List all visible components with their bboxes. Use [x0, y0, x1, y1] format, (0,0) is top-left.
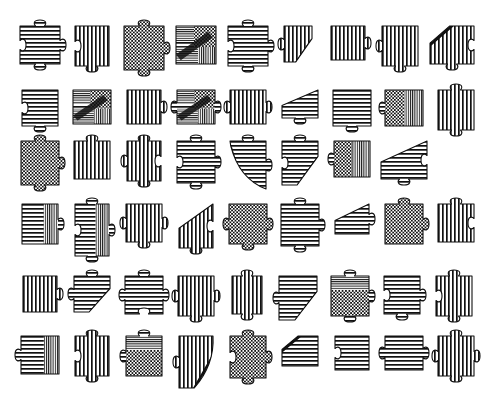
puzzle-piece-r5c3[interactable]	[117, 268, 171, 322]
puzzle-piece-r4c5[interactable]	[221, 196, 275, 252]
puzzle-piece-r3c4[interactable]	[169, 133, 223, 191]
puzzle-piece-r1c8[interactable]	[374, 18, 426, 74]
puzzle-piece-r3c8[interactable]	[373, 133, 435, 187]
piece-cell	[172, 268, 220, 330]
piece-cell	[68, 196, 116, 258]
piece-row-4	[16, 196, 435, 258]
puzzle-piece-r6c5[interactable]	[222, 328, 274, 386]
piece-cell	[16, 328, 64, 390]
puzzle-piece-r6c3[interactable]	[118, 328, 170, 384]
puzzle-piece-r1c3[interactable]	[116, 18, 172, 78]
piece-row-1	[16, 18, 435, 80]
piece-cell	[172, 18, 220, 80]
puzzle-piece-r2c5[interactable]	[222, 82, 274, 132]
puzzle-piece-r4c8[interactable]	[377, 196, 431, 252]
puzzle-piece-r5c5[interactable]	[224, 268, 270, 322]
piece-cell	[16, 133, 64, 195]
puzzle-piece-r4c7[interactable]	[327, 196, 377, 242]
puzzle-piece-r6c2[interactable]	[67, 328, 117, 384]
piece-cell	[172, 196, 220, 258]
puzzle-piece-r2c3[interactable]	[119, 82, 169, 132]
piece-cell	[324, 18, 372, 80]
piece-cell	[378, 268, 426, 330]
piece-cell	[68, 328, 116, 390]
puzzle-piece-r1c2[interactable]	[67, 18, 117, 74]
puzzle-piece-r5c2[interactable]	[66, 268, 118, 320]
puzzle-piece-r2c1[interactable]	[14, 82, 66, 134]
piece-cell	[276, 18, 320, 80]
puzzle-piece-r2c8[interactable]	[377, 82, 431, 134]
puzzle-piece-r1c6[interactable]	[276, 18, 320, 70]
puzzle-piece-r2c4[interactable]	[169, 82, 223, 132]
puzzle-piece-r5c7[interactable]	[323, 268, 377, 324]
puzzle-piece-r6c8[interactable]	[377, 328, 431, 378]
piece-cell	[68, 18, 116, 80]
puzzle-piece-r5c1[interactable]	[15, 268, 65, 320]
puzzle-piece-r1c9[interactable]	[422, 18, 482, 72]
piece-cell	[16, 196, 64, 258]
puzzle-piece-r3c7[interactable]	[326, 133, 378, 185]
puzzle-piece-r3c6[interactable]	[274, 133, 326, 193]
piece-cell	[68, 268, 116, 330]
puzzle-piece-r3c2[interactable]	[66, 133, 118, 187]
piece-row-3	[16, 133, 435, 195]
piece-cell	[224, 133, 272, 195]
piece-cell	[276, 328, 324, 390]
puzzle-piece-r4c1[interactable]	[14, 196, 66, 252]
piece-cell	[432, 196, 480, 258]
puzzle-piece-r3c1[interactable]	[13, 133, 67, 193]
piece-cell	[120, 133, 168, 195]
piece-row-6	[16, 328, 435, 390]
puzzle-piece-r6c1[interactable]	[13, 328, 67, 382]
puzzle-piece-r4c9[interactable]	[430, 196, 482, 250]
piece-cell	[172, 133, 220, 195]
puzzle-piece-r5c4[interactable]	[170, 268, 222, 324]
piece-cell	[224, 18, 272, 80]
puzzle-piece-r1c4[interactable]	[168, 18, 224, 72]
piece-cell	[328, 196, 376, 258]
puzzle-piece-r6c4[interactable]	[171, 328, 221, 396]
puzzle-piece-r4c2[interactable]	[67, 196, 117, 264]
piece-cell	[276, 133, 324, 195]
puzzle-piece-r5c8[interactable]	[376, 268, 428, 322]
puzzle-piece-r6c9[interactable]	[430, 328, 482, 384]
puzzle-piece-r2c2[interactable]	[65, 82, 119, 132]
piece-cell	[68, 133, 116, 195]
piece-cell	[432, 82, 480, 144]
piece-cell	[224, 268, 270, 330]
puzzle-piece-r1c7[interactable]	[323, 18, 373, 68]
piece-cell	[328, 328, 376, 390]
piece-cell	[120, 328, 168, 390]
puzzle-piece-r3c3[interactable]	[119, 133, 169, 189]
piece-cell	[380, 328, 428, 390]
puzzle-piece-r1c1[interactable]	[12, 18, 68, 72]
puzzle-piece-r4c4[interactable]	[171, 196, 221, 256]
piece-cell	[172, 328, 220, 390]
piece-cell	[428, 18, 476, 80]
puzzle-piece-r2c9[interactable]	[430, 82, 482, 138]
piece-cell	[432, 328, 480, 390]
piece-cell	[380, 133, 428, 195]
piece-cell	[328, 133, 376, 195]
piece-cell	[224, 328, 272, 390]
piece-cell	[120, 196, 168, 258]
puzzle-piece-r4c3[interactable]	[118, 196, 170, 250]
puzzle-piece-r5c6[interactable]	[271, 268, 325, 328]
piece-cell	[276, 196, 324, 258]
puzzle-piece-r2c7[interactable]	[325, 82, 379, 134]
puzzle-piece-r2c6[interactable]	[274, 82, 326, 126]
piece-cell	[16, 268, 64, 330]
puzzle-piece-r1c5[interactable]	[220, 18, 276, 74]
puzzle-piece-r3c5[interactable]	[222, 133, 274, 197]
piece-cell	[326, 268, 374, 330]
piece-cell	[380, 196, 428, 258]
puzzle-piece-r6c6[interactable]	[274, 328, 326, 374]
piece-cell	[224, 196, 272, 258]
puzzle-piece-r5c9[interactable]	[428, 268, 480, 324]
puzzle-piece-r6c7[interactable]	[327, 328, 377, 378]
piece-cell	[16, 18, 64, 80]
piece-cell	[430, 268, 478, 330]
puzzle-piece-r4c6[interactable]	[273, 196, 327, 254]
piece-row-5	[16, 268, 435, 330]
